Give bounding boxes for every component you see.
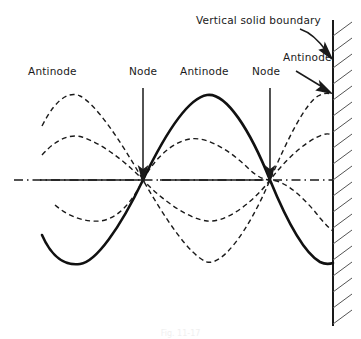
figure-caption: Fig. 11-17 — [0, 329, 361, 338]
node-arrows — [139, 88, 274, 181]
dashed-envelope-medium — [42, 134, 333, 221]
antinode-label-left: Antinode — [28, 66, 77, 77]
antinode-label-right: Antinode — [283, 52, 332, 63]
node-label-right: Node — [252, 66, 280, 77]
antinode-label-center: Antinode — [180, 66, 229, 77]
standing-wave-figure: Vertical solid boundary Antinode Node An… — [0, 0, 361, 339]
dashed-wave-envelopes — [42, 93, 333, 262]
vertical-solid-boundary — [333, 20, 352, 326]
boundary-hatching — [333, 22, 352, 324]
dashed-envelope-medium-mirror — [55, 139, 333, 231]
node-label-left: Node — [129, 66, 157, 77]
boundary-title-label: Vertical solid boundary — [196, 15, 321, 26]
antinode-arrow-right-head — [317, 82, 331, 93]
antinode-arrow-right-shaft — [296, 71, 324, 88]
antinode-arrow-right — [296, 71, 331, 93]
dashed-envelope-large — [42, 93, 333, 262]
